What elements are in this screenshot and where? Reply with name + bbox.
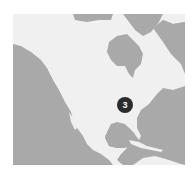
- cluster-count: 3: [122, 100, 127, 110]
- map-canvas[interactable]: [13, 14, 185, 165]
- map-tiles: [13, 14, 185, 165]
- cluster-marker[interactable]: 3: [117, 97, 133, 113]
